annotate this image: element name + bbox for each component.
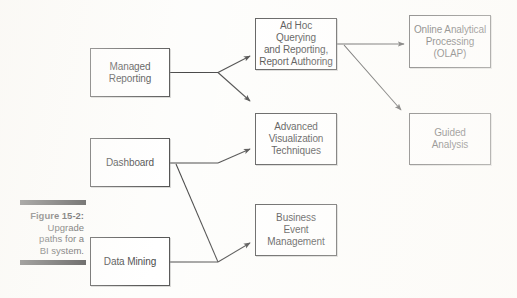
caption-rule-top <box>20 200 86 205</box>
figure-caption: Figure 15-2: Upgrade paths for a BI syst… <box>14 200 86 265</box>
node-label: Guided Analysis <box>429 127 471 151</box>
node-label: Data Mining <box>101 256 159 268</box>
edge-dashboard-to-business-event-management <box>176 164 218 262</box>
edge-data-mining-to-business-event-management <box>218 243 250 262</box>
caption-title: Figure 15-2: <box>14 210 84 222</box>
node-label: Business Event Management <box>264 212 327 248</box>
caption-body: Upgrade paths for a BI system. <box>14 222 84 257</box>
node-label: Dashboard <box>103 157 157 169</box>
node-dashboard[interactable]: Dashboard <box>90 138 170 187</box>
edge-dashboard-to-advanced-visualization <box>218 149 250 163</box>
edge-ad-hoc-querying-to-guided-analysis <box>344 45 401 110</box>
node-managed-reporting[interactable]: Managed Reporting <box>90 48 170 97</box>
node-advanced-visualization[interactable]: Advanced Visualization Techniques <box>255 113 337 165</box>
caption-rule-bottom <box>20 260 86 265</box>
node-data-mining[interactable]: Data Mining <box>90 237 170 286</box>
node-ad-hoc-querying[interactable]: Ad Hoc Querying and Reporting, Report Au… <box>255 18 337 70</box>
node-label: Advanced Visualization Techniques <box>266 121 327 157</box>
node-business-event-management[interactable]: Business Event Management <box>255 204 337 256</box>
node-label: Online Analytical Processing (OLAP) <box>411 24 489 60</box>
edge-managed-reporting-to-advanced-visualization <box>218 73 250 102</box>
node-guided-analysis[interactable]: Guided Analysis <box>409 113 491 165</box>
edge-managed-reporting-to-ad-hoc-querying <box>218 56 250 73</box>
caption-text: Figure 15-2: Upgrade paths for a BI syst… <box>14 210 86 256</box>
node-label: Ad Hoc Querying and Reporting, Report Au… <box>256 20 336 68</box>
node-label: Managed Reporting <box>106 61 154 85</box>
figure-page: Managed Reporting Dashboard Data Mining … <box>0 0 517 298</box>
node-olap[interactable]: Online Analytical Processing (OLAP) <box>409 15 491 68</box>
